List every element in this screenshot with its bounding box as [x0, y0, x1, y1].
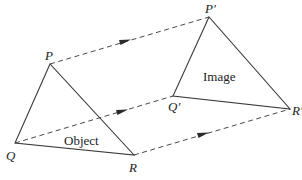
vertex-label-r: R	[128, 160, 137, 175]
vertex-label-r-prime: R′	[291, 103, 302, 118]
object-label: Object	[64, 133, 99, 148]
translation-vector-r	[134, 109, 290, 155]
vertex-label-q: Q	[6, 148, 16, 163]
vertex-label-p-prime: P′	[204, 1, 216, 16]
arrowhead-r-icon	[197, 133, 209, 139]
arrowhead-q-icon	[116, 110, 128, 116]
translation-vector-p	[50, 17, 209, 64]
arrowhead-p-icon	[119, 40, 131, 46]
vertex-label-q-prime: Q′	[168, 99, 180, 114]
image-label: Image	[203, 69, 236, 84]
image-triangle	[173, 17, 290, 109]
vertex-label-p: P	[44, 48, 53, 63]
translation-diagram: P Q R P′ Q′ R′ Object Image	[0, 0, 302, 180]
